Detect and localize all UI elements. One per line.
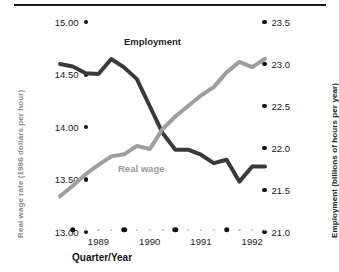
- right-tick: 23.0: [262, 59, 290, 69]
- right-tick: 23.5: [262, 17, 290, 27]
- right-tick-label: 22.0: [272, 143, 291, 154]
- x-axis-ticks: [60, 225, 265, 234]
- x-axis-year-label: 1992: [242, 236, 263, 247]
- x-axis-title: Quarter/Year: [72, 252, 132, 263]
- x-axis-year-label: 1990: [139, 236, 160, 247]
- x-tick-minor: [149, 228, 151, 230]
- right-tick-label: 23.5: [272, 17, 291, 28]
- right-tick: 21.0: [262, 227, 290, 237]
- x-axis-year-label: 1991: [190, 236, 211, 247]
- series-label-real-wage: Real wage: [118, 163, 164, 174]
- x-tick-minor: [251, 228, 253, 230]
- top-divider-rule: [14, 4, 326, 6]
- right-tick-label: 23.0: [272, 59, 291, 70]
- x-tick-minor: [238, 228, 240, 230]
- plot-area: [60, 22, 265, 232]
- x-tick-minor: [85, 228, 87, 230]
- right-tick: 21.5: [262, 185, 290, 195]
- x-tick-minor: [187, 228, 189, 230]
- x-tick-major: [224, 227, 230, 233]
- right-tick: 22.5: [262, 101, 290, 111]
- right-tick-label: 22.5: [272, 101, 291, 112]
- right-tick: 22.0: [262, 143, 290, 153]
- right-tick-label: 21.5: [272, 185, 291, 196]
- right-axis-title: Employment (billions of hours per year): [330, 83, 339, 238]
- right-tick-label: 21.0: [272, 227, 291, 238]
- left-axis-title: Real wage rate (1986 dollars per hour): [16, 90, 25, 238]
- x-tick-major: [173, 227, 179, 233]
- x-axis-year-label: 1989: [88, 236, 109, 247]
- x-tick-major: [121, 227, 127, 233]
- series-label-employment: Employment: [124, 36, 181, 47]
- x-tick-minor: [97, 228, 99, 230]
- series-lines: [60, 22, 265, 232]
- x-tick-minor: [200, 228, 202, 230]
- x-tick-minor: [161, 228, 163, 230]
- x-tick-minor: [213, 228, 215, 230]
- x-tick-minor: [59, 228, 61, 230]
- x-tick-minor: [110, 228, 112, 230]
- x-tick-minor: [136, 228, 138, 230]
- x-tick-major: [70, 227, 76, 233]
